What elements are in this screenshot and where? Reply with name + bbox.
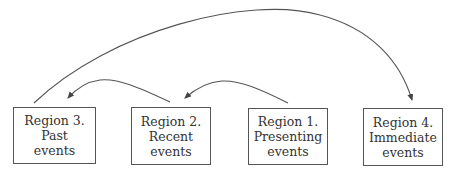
arrow-region1-to-region2 xyxy=(185,81,288,103)
region-4-line-2: Immediate xyxy=(369,130,437,145)
region-2-box: Region 2. Recent events xyxy=(131,107,211,165)
region-3-line-3: events xyxy=(34,143,75,158)
region-2-line-3: events xyxy=(150,144,191,159)
region-2-title: Region 2. xyxy=(141,114,201,129)
region-3-title: Region 3. xyxy=(24,113,84,128)
region-1-line-3: events xyxy=(267,144,308,159)
arrow-region3-to-region4 xyxy=(34,9,412,103)
region-1-box: Region 1. Presenting events xyxy=(248,108,328,165)
region-1-line-2: Presenting xyxy=(254,129,323,144)
region-4-line-3: events xyxy=(382,145,423,160)
region-3-box: Region 3. Past events xyxy=(13,107,96,164)
arrow-region2-to-region3 xyxy=(68,80,170,102)
region-2-line-2: Recent xyxy=(149,129,193,144)
region-4-box: Region 4. Immediate events xyxy=(363,108,443,166)
region-1-title: Region 1. xyxy=(258,114,318,129)
diagram-canvas: Region 3. Past events Region 2. Recent e… xyxy=(0,0,457,176)
region-3-line-2: Past xyxy=(41,128,68,143)
region-4-title: Region 4. xyxy=(373,115,433,130)
